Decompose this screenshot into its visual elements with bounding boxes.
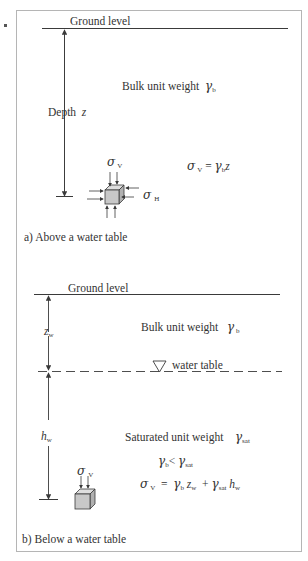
subscript: sat <box>242 437 250 445</box>
gamma-symbol: γ <box>235 430 242 444</box>
subscript: w <box>191 484 196 492</box>
sigma-symbol: σ <box>107 155 115 169</box>
caption-b: b) Below a water table <box>22 534 126 546</box>
sigma-h-label: σH <box>143 189 159 203</box>
subscript: w <box>48 331 53 339</box>
gamma-symbol: γ <box>215 159 222 173</box>
equals: = <box>205 160 212 172</box>
subscript: sat <box>185 461 193 469</box>
water-table-symbol <box>153 361 166 372</box>
subscript: V <box>117 162 122 170</box>
subscript: V <box>88 471 93 479</box>
bulk-unit-weight-label-b: Bulk unit weight γb <box>141 321 240 335</box>
soil-element-cube-a <box>87 172 139 218</box>
ground-level-label-b: Ground level <box>68 283 128 295</box>
water-table-label: water table <box>172 360 223 372</box>
plus: + <box>202 478 209 490</box>
subscript: b <box>180 484 184 492</box>
saturated-text: Saturated unit weight <box>125 431 223 443</box>
z-var: z <box>225 160 229 172</box>
depth-text: Depth <box>48 106 76 118</box>
less-than: < <box>169 455 176 467</box>
sigma-symbol: σ <box>140 477 148 491</box>
subscript: H <box>154 195 159 203</box>
gamma-symbol: γ <box>211 477 218 491</box>
sigma-v-label-a: σV <box>107 156 122 170</box>
figure: Ground level Bulk unit weight γb Depth z… <box>0 0 308 561</box>
depth-var: z <box>82 106 86 118</box>
gamma-inequality: γb< γsat <box>158 455 193 469</box>
equation-a: σV = γbz <box>187 160 230 174</box>
zw-label: zw <box>44 326 54 339</box>
depth-label: Depth z <box>48 107 86 119</box>
subscript: w <box>47 436 52 444</box>
hw-label: hw <box>41 431 52 444</box>
sigma-symbol: σ <box>187 159 195 173</box>
equation-b: σV = γb zw + γsat hw <box>140 478 240 492</box>
caption-a: a) Above a water table <box>24 232 127 244</box>
subscript: b <box>212 86 216 94</box>
bulk-text: Bulk unit weight <box>122 80 199 92</box>
subscript: V <box>150 484 155 492</box>
subscript: V <box>197 166 202 174</box>
bulk-unit-weight-label-a: Bulk unit weight γb <box>122 80 216 94</box>
subscript: b <box>236 327 240 335</box>
ground-level-label-a: Ground level <box>70 16 130 28</box>
subscript: w <box>235 484 240 492</box>
equals: = <box>161 478 168 490</box>
sigma-symbol: σ <box>143 188 151 202</box>
sigma-v-label-b: σV <box>77 465 93 479</box>
saturated-unit-weight-label: Saturated unit weight γsat <box>125 431 250 445</box>
soil-element-cube-b <box>75 476 95 509</box>
subscript: sat <box>219 484 227 492</box>
sigma-symbol: σ <box>77 464 85 478</box>
bulk-text: Bulk unit weight <box>141 321 218 333</box>
gamma-symbol: γ <box>227 320 234 334</box>
